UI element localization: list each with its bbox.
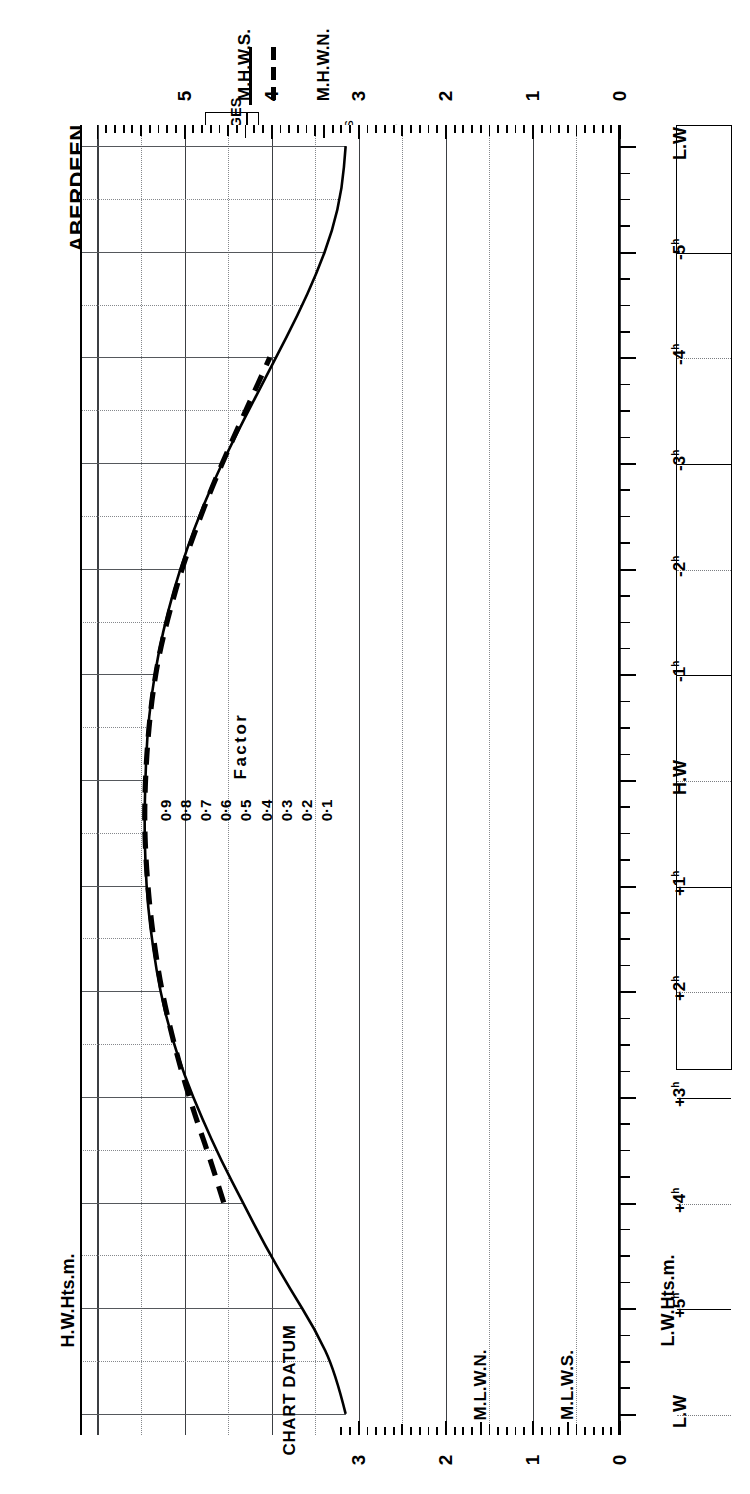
lw-height-tick: [419, 1427, 421, 1435]
time-tick: [620, 1071, 630, 1073]
lw-height-tick: [593, 1427, 595, 1435]
ladder-time-cell[interactable]: [677, 253, 731, 293]
time-tick: [620, 384, 630, 386]
ladder-time-cell[interactable]: [677, 570, 731, 610]
hw-height-tick: [584, 125, 586, 133]
ladder-time-cell[interactable]: [677, 1415, 731, 1455]
hw-height-tick: [410, 125, 412, 133]
hw-height-tick: [532, 125, 534, 139]
time-tick: [620, 648, 630, 650]
ladder-time-cell[interactable]: [677, 358, 731, 398]
lw-height-tick: [462, 1427, 464, 1435]
time-tick: [620, 1044, 630, 1046]
time-tick: [620, 542, 630, 544]
time-tick: [620, 463, 636, 465]
hw-height-tick: [419, 125, 421, 133]
hw-height-tick: [175, 125, 177, 133]
lw-height-tick: [384, 1427, 386, 1435]
time-tick: [620, 437, 630, 439]
ladder-time-cell[interactable]: [677, 1309, 731, 1349]
time-tick: [620, 859, 630, 861]
lw-height-tick: [550, 1427, 552, 1435]
hw-height-tick: [192, 125, 194, 133]
ladder-time-cell[interactable]: [677, 675, 731, 715]
lw-height-label: 1: [522, 1430, 544, 1490]
hw-height-tick: [236, 125, 238, 133]
hw-height-tick: [253, 125, 255, 133]
ladder-time-cell[interactable]: [677, 992, 731, 1032]
time-entry-ladder[interactable]: [676, 125, 732, 1070]
factor-label: 0·2: [297, 782, 314, 838]
time-tick: [620, 780, 636, 782]
time-tick: [620, 1414, 636, 1416]
time-tick: [620, 1387, 630, 1389]
ladder-time-cell[interactable]: [677, 1098, 731, 1138]
hw-height-label: 5: [174, 66, 196, 126]
hw-height-tick: [332, 125, 334, 133]
time-tick: [620, 912, 630, 914]
hw-height-tick: [393, 125, 395, 133]
lw-height-tick: [428, 1427, 430, 1435]
time-tick: [620, 331, 630, 333]
hw-height-tick: [619, 125, 621, 139]
hw-height-tick: [201, 125, 203, 133]
hw-height-tick: [340, 125, 342, 133]
hw-height-tick: [454, 125, 456, 133]
hw-height-tick: [401, 125, 403, 136]
time-tick: [620, 701, 630, 703]
ladder-time-cell[interactable]: [677, 781, 731, 821]
lw-height-tick: [410, 1427, 412, 1435]
tide-curves: [80, 125, 620, 1435]
hw-height-tick: [471, 125, 473, 133]
hw-height-tick: [489, 125, 491, 136]
hw-height-label: 0: [609, 66, 631, 126]
time-tick: [620, 516, 630, 518]
factor-caption: Factor: [231, 686, 251, 806]
hw-height-label: 2: [435, 66, 457, 126]
time-tick: [620, 674, 636, 676]
ladder-time-cell[interactable]: [677, 1204, 731, 1244]
tidal-curve-diagram: ABERDEEN MEAN SPRING AND NEAP CURVES MEA…: [0, 0, 750, 1494]
hw-height-tick: [271, 125, 273, 139]
time-tick: [620, 1229, 630, 1231]
ladder-time-cell[interactable]: [677, 464, 731, 504]
lw-height-tick: [375, 1427, 377, 1435]
hw-height-tick: [149, 125, 151, 133]
time-tick: [620, 1335, 630, 1337]
time-tick: [620, 622, 630, 624]
hw-height-tick: [541, 125, 543, 133]
hw-height-tick: [105, 125, 107, 133]
time-tick: [620, 1097, 636, 1099]
lw-height-tick: [515, 1427, 517, 1435]
mlwn-label: M.L.W.N.: [471, 1325, 491, 1445]
hw-height-tick: [131, 125, 133, 133]
lw-height-tick: [393, 1427, 395, 1435]
time-tick: [620, 569, 636, 571]
time-tick: [620, 410, 630, 412]
hw-height-tick: [140, 125, 142, 136]
mhwn-label: M.H.W.N.: [314, 5, 334, 125]
hw-height-tick: [550, 125, 552, 133]
lw-height-tick: [340, 1427, 342, 1435]
hw-height-label: 1: [522, 66, 544, 126]
hw-height-tick: [358, 125, 360, 139]
ladder-time-cell[interactable]: [677, 887, 731, 927]
lw-height-label: 3: [348, 1430, 370, 1490]
time-tick: [620, 1176, 630, 1178]
hw-height-tick: [114, 125, 116, 133]
time-tick: [620, 1308, 636, 1310]
mlws-label: M.L.W.S.: [558, 1325, 578, 1445]
mhws-label-tick: [245, 125, 247, 138]
hw-height-tick: [558, 125, 560, 133]
factor-label: 0·7: [197, 782, 214, 838]
hw-height-tick: [306, 125, 308, 133]
hw-height-tick: [462, 125, 464, 133]
hw-height-tick: [227, 125, 229, 136]
mhwn-label-tick: [323, 125, 325, 138]
time-tick: [620, 173, 630, 175]
hw-height-tick: [436, 125, 438, 133]
hw-height-tick: [158, 125, 160, 133]
ladder-time-cell[interactable]: [677, 126, 731, 166]
mhws-label: M.H.W.S.: [235, 5, 255, 125]
hw-height-tick: [523, 125, 525, 133]
